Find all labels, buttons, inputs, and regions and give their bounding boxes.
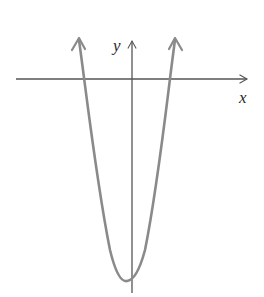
parabola-graph: y x (0, 0, 264, 297)
parabola-curve (79, 40, 175, 281)
y-axis-label: y (111, 36, 121, 55)
x-axis-label: x (238, 88, 247, 107)
